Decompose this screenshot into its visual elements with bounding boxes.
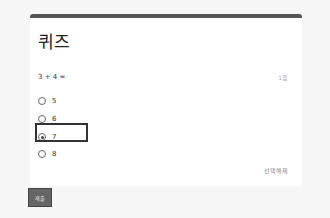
option-label: 8 bbox=[52, 150, 56, 158]
selected-option-highlight bbox=[35, 123, 88, 142]
question-points: 1점 bbox=[278, 73, 288, 82]
option-label: 6 bbox=[52, 115, 56, 123]
submit-button[interactable]: 제출 bbox=[28, 188, 52, 207]
quiz-card: 퀴즈 3 + 4 = 1점 5 6 7 8 선택해제 bbox=[30, 14, 302, 186]
option-8[interactable]: 8 bbox=[38, 147, 56, 161]
option-5[interactable]: 5 bbox=[38, 94, 56, 108]
clear-selection-link[interactable]: 선택해제 bbox=[264, 166, 288, 175]
option-label: 5 bbox=[52, 97, 56, 105]
radio-icon[interactable] bbox=[38, 115, 46, 123]
radio-icon[interactable] bbox=[38, 150, 46, 158]
quiz-title: 퀴즈 bbox=[38, 28, 70, 53]
radio-icon[interactable] bbox=[38, 97, 46, 105]
question-text: 3 + 4 = bbox=[38, 73, 65, 81]
